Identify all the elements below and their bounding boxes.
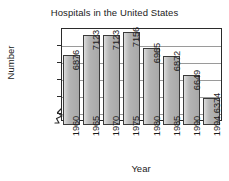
bar-value-label: 6872 xyxy=(172,51,182,71)
x-axis-title: Year xyxy=(58,163,224,174)
y-axis-title: Number xyxy=(5,33,16,93)
x-axis-tick-label: 1965 xyxy=(91,116,101,136)
bar-value-label: 6649 xyxy=(192,69,202,89)
chart-title: Hospitals in the United States xyxy=(0,7,229,18)
bar-value-label: 6876 xyxy=(71,50,81,70)
x-axis-tick-label: 1970 xyxy=(111,116,121,136)
bar: 7123 xyxy=(103,35,120,125)
bar-chart-figure: Hospitals in the United States Number Ye… xyxy=(0,0,229,181)
bar-value-label: 7156 xyxy=(131,27,141,47)
x-axis-tick-label: 1975 xyxy=(131,116,141,136)
x-axis-tick-label: 1985 xyxy=(172,116,182,136)
x-axis-tick-label: 1980 xyxy=(152,116,162,136)
bar: 6876 xyxy=(63,55,80,125)
bar-value-label: 6374 xyxy=(212,93,222,113)
x-axis-tick-label: 1990 xyxy=(192,116,202,136)
bar-series: 68767123712371566965687266496374 xyxy=(61,28,222,121)
bar: 7156 xyxy=(123,32,140,125)
bar: 6872 xyxy=(163,56,180,125)
bar: 6965 xyxy=(143,48,160,125)
bar-value-label: 7123 xyxy=(91,29,101,49)
bar-value-label: 6965 xyxy=(152,43,162,63)
bar: 7123 xyxy=(83,35,100,125)
x-axis-tick-label: 1994 xyxy=(212,116,222,136)
x-axis-tick-label: 1960 xyxy=(71,116,81,136)
bar-value-label: 7123 xyxy=(111,29,121,49)
